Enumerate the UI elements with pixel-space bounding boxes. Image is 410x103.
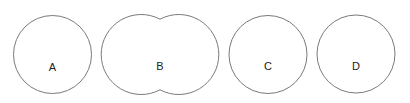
circle-c-outline: [229, 16, 307, 94]
shape-a: A: [14, 16, 92, 94]
circle-a-outline: [14, 16, 92, 94]
shape-c: C: [229, 16, 307, 94]
circle-d-outline: [317, 15, 395, 93]
double-circle-b-outline: [101, 15, 219, 95]
shapes-diagram: A B C D: [0, 0, 410, 103]
shape-d: D: [317, 15, 395, 93]
shape-c-label: C: [264, 60, 272, 72]
shape-b: B: [101, 15, 219, 95]
shape-b-label: B: [156, 60, 163, 72]
shape-a-label: A: [49, 61, 57, 73]
shape-d-label: D: [352, 60, 360, 72]
